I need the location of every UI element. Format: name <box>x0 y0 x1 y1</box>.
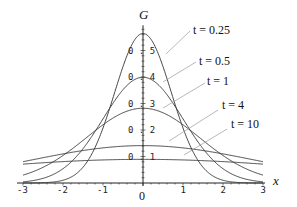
x-tick-label: -2 <box>57 185 68 195</box>
series-label: t = 1 <box>207 74 229 88</box>
leader-line <box>166 31 190 54</box>
x-tick-label: -3 <box>17 185 28 195</box>
chart-container: xG-3-2-112300 . 10 . 20 . 30 . 40 . 5t =… <box>0 0 297 207</box>
y-tick-label: 0 . 3 <box>128 99 155 109</box>
x-axis-label: x <box>272 173 279 188</box>
leader-line <box>169 110 218 141</box>
origin-label: 0 <box>139 189 145 203</box>
y-tick-label: 0 . 1 <box>128 152 155 162</box>
y-axis-label: G <box>139 7 149 22</box>
series-label: t = 10 <box>231 117 259 131</box>
heat-kernel-chart: xG-3-2-112300 . 10 . 20 . 30 . 40 . 5t =… <box>0 0 297 207</box>
series-label: t = 4 <box>222 98 244 112</box>
x-tick-label: -1 <box>97 185 108 195</box>
x-tick-label: 1 <box>181 185 186 195</box>
series-label: t = 0.5 <box>199 54 230 68</box>
y-tick-label: 0 . 2 <box>128 125 155 135</box>
y-tick-label: 0 . 5 <box>128 46 155 56</box>
x-tick-label: 2 <box>221 185 226 195</box>
series-label: t = 0.25 <box>193 23 230 37</box>
x-tick-label: 3 <box>261 185 266 195</box>
leader-line <box>163 62 196 82</box>
